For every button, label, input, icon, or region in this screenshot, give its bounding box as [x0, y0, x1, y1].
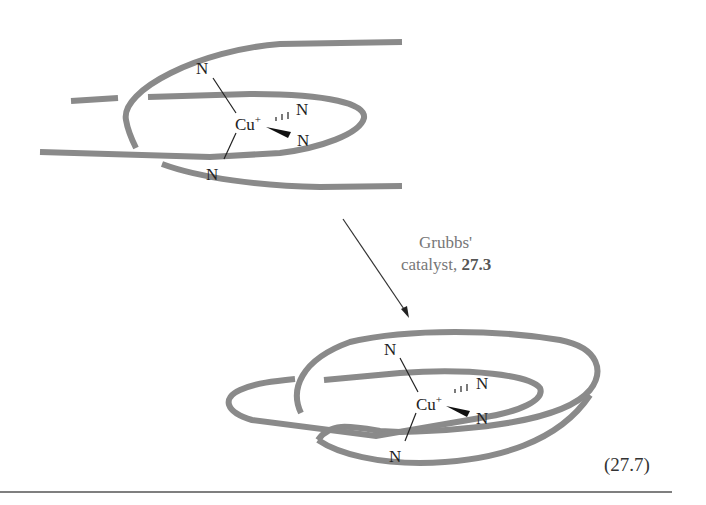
reaction-diagram: N Cu+ N N N Grubbs' catalyst, 27.3 N Cu+… — [0, 0, 706, 505]
n-atom: N — [476, 409, 488, 428]
equation-number: (27.7) — [604, 454, 650, 476]
n-atom: N — [476, 374, 488, 393]
n-atom: N — [196, 59, 208, 78]
cu-atom: Cu+ — [416, 393, 442, 414]
condition-line1: Grubbs' — [419, 233, 472, 252]
reaction-arrow: Grubbs' catalyst, 27.3 — [343, 219, 491, 318]
hashed-bond — [276, 112, 288, 121]
n-atom: N — [206, 165, 218, 184]
n-atom: N — [384, 340, 396, 359]
n-atom: N — [297, 131, 309, 150]
cu-atom: Cu+ — [235, 113, 261, 134]
n-atom: N — [296, 100, 308, 119]
wedge-bond — [266, 127, 291, 138]
bottom-catenane: N Cu+ N N N — [229, 332, 598, 466]
wedge-bond — [446, 406, 470, 417]
top-catenate: N Cu+ N N N — [40, 42, 402, 187]
hashed-bond — [455, 384, 467, 393]
arrow-head-icon — [401, 306, 409, 318]
n-atom: N — [389, 447, 401, 466]
arrow-shaft — [343, 219, 406, 312]
top-lower-strand — [162, 164, 402, 187]
top-inner-loop — [40, 94, 364, 157]
condition-line2: catalyst, 27.3 — [401, 255, 491, 274]
top-left-fragment — [71, 98, 118, 101]
